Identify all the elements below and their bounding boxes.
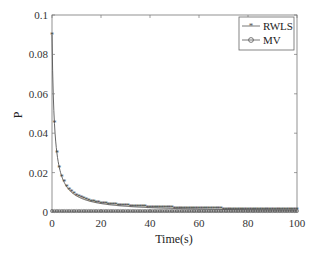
x-tick-label: 0 (49, 217, 55, 229)
legend: * RWLS MV (239, 17, 294, 50)
y-tick-label: 0.06 (29, 88, 49, 100)
x-tick-label: 100 (289, 217, 306, 229)
x-tick-label: 80 (243, 217, 255, 229)
y-tick-label: 0.02 (29, 167, 48, 179)
rwls-marker: * (50, 31, 54, 40)
x-axis-label: Time(s) (155, 232, 193, 246)
x-tick-label: 40 (145, 217, 157, 229)
legend-mv: MV (263, 34, 281, 46)
rwls-marker: * (52, 119, 56, 128)
y-tick-label: 0 (43, 206, 49, 218)
x-tick-label: 60 (194, 217, 206, 229)
rwls-marker: * (55, 149, 59, 158)
star-marker-icon: * (249, 21, 254, 31)
y-tick-label: 0.04 (29, 127, 49, 139)
rwls-marker: * (57, 164, 61, 173)
y-axis-label: P (11, 111, 25, 118)
legend-rwls: RWLS (263, 20, 293, 32)
chart: ****************************************… (0, 0, 319, 258)
x-tick-label: 20 (96, 217, 108, 229)
y-tick-label: 0.1 (34, 9, 48, 21)
y-tick-label: 0.08 (29, 48, 49, 60)
rwls-line (52, 35, 297, 211)
